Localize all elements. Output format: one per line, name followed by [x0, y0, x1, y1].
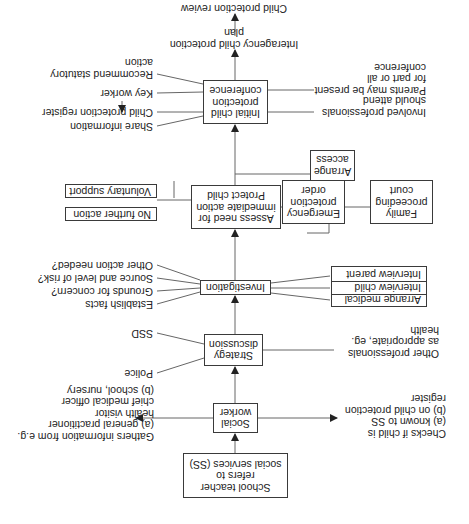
share-information-label: Share information — [70, 121, 153, 133]
interagency-plan-label: Interagency child protection plan — [159, 27, 309, 50]
involved-professionals-label: Involved professionals should attend — [314, 95, 426, 118]
family-proceeding-court-box: Family proceeding court — [370, 180, 433, 224]
ssd-label: SSD — [131, 328, 153, 340]
police-label: Police — [124, 368, 153, 380]
child-protection-register-label: Child protection register — [42, 107, 153, 119]
gathers-information-label: Gathers information from e.g. (a) genera… — [4, 385, 154, 443]
investigation-box: Investigation — [200, 280, 271, 295]
key-worker-label: Key worker — [100, 88, 153, 100]
child-protection-flowchart: School teacher refers to social services… — [0, 0, 469, 524]
no-further-action-box: No further action — [65, 207, 157, 221]
other-professionals-label: Other professionals as appropriate, eg. … — [329, 325, 439, 360]
strategy-discussion-box: Strategy discussion — [204, 334, 263, 366]
grounds-concern-label: Grounds for concern? — [51, 286, 153, 298]
social-worker-box: Social worker — [213, 403, 258, 433]
parents-present-label: Parents may be present for part or all c… — [314, 62, 426, 97]
checks-child-label: Checks if child is (a) known to SS (b) o… — [336, 393, 446, 439]
school-teacher-box: School teacher refers to social services… — [183, 453, 288, 498]
assess-need-box: Assess need for immediate action Protect… — [191, 185, 281, 229]
emergency-protection-order-box: Emergency protection order — [282, 180, 345, 224]
source-risk-label: Source and level of risk? — [38, 273, 153, 285]
initial-conference-box: Initial child protection conference — [203, 80, 268, 124]
interview-parent-box: Interview parent — [331, 266, 427, 282]
voluntary-support-box: Voluntary support — [65, 184, 157, 198]
other-action-label: Other action needed? — [52, 260, 153, 272]
child-protection-review-label: Child protection review — [159, 3, 309, 15]
arrange-access-box: Arrange access — [310, 150, 355, 181]
establish-facts-label: Establish facts — [85, 299, 153, 311]
recommend-statutory-label: Recommend statutory action — [50, 57, 153, 80]
